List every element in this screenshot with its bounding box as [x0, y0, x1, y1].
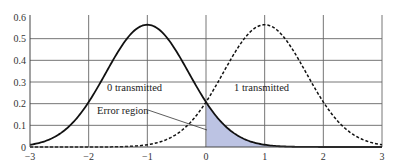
x-tick-label: 2 [321, 151, 326, 162]
label-0-transmitted: 0 transmitted [107, 82, 163, 93]
error-region-shading [206, 102, 382, 147]
label-error-region: Error region [97, 105, 149, 116]
label-1-transmitted: 1 transmitted [234, 82, 290, 93]
x-tick-label: 3 [380, 151, 385, 162]
y-tick-label: 0.6 [14, 12, 27, 23]
y-tick-labels: 00.10.20.30.40.50.6 [14, 12, 27, 153]
x-tick-label: −3 [25, 151, 36, 162]
y-tick-label: 0.5 [14, 33, 27, 44]
gaussian-error-chart: 00.10.20.30.40.50.6 −3−2−10123 0 transmi… [0, 0, 394, 168]
y-tick-label: 0.1 [14, 120, 27, 131]
y-tick-label: 0.3 [14, 77, 27, 88]
x-tick-label: 1 [262, 151, 267, 162]
y-tick-label: 0.4 [14, 55, 27, 66]
x-tick-label: −1 [142, 151, 153, 162]
y-tick-label: 0.2 [14, 98, 27, 109]
error-region-pointer [148, 110, 207, 130]
x-tick-label: 0 [204, 151, 209, 162]
x-tick-label: −2 [83, 151, 94, 162]
x-tick-labels: −3−2−10123 [25, 151, 385, 162]
